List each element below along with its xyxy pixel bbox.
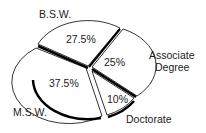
value-doctorate: 10%: [107, 94, 128, 105]
label-doctorate: Doctorate: [126, 114, 172, 125]
label-associate-line1: Associate: [149, 50, 195, 61]
value-bsw: 27.5%: [66, 34, 96, 45]
value-associate: 25%: [104, 57, 125, 68]
label-msw: M.S.W.: [13, 107, 47, 118]
value-msw: 37.5%: [49, 78, 79, 89]
label-associate-line2: Degree: [155, 62, 189, 73]
label-bsw: B.S.W.: [39, 9, 71, 20]
